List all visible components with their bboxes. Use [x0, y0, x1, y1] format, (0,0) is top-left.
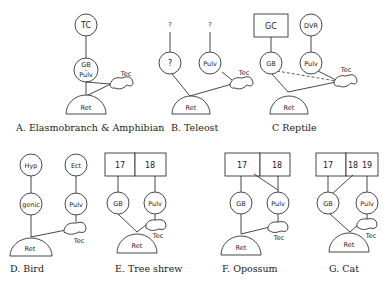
svg-text:?: ? — [168, 59, 172, 68]
node-tec — [110, 77, 133, 89]
svg-text:17: 17 — [115, 161, 125, 170]
panel-g: 17 18 19 GB Pulv Tec Ret G. Cat — [316, 153, 378, 274]
svg-text:GB: GB — [236, 200, 246, 208]
svg-text:Tec: Tec — [238, 69, 250, 77]
svg-text:Ret: Ret — [284, 104, 295, 112]
panel-d: Hyp Ect genic Pulv Tec Ret D. Bird — [10, 154, 87, 274]
svg-text:Tec: Tec — [340, 66, 352, 74]
svg-text:Ret: Ret — [236, 244, 247, 252]
svg-text:Hyp: Hyp — [25, 162, 38, 170]
svg-text:Ret: Ret — [132, 242, 143, 250]
svg-text:18: 18 — [272, 161, 282, 170]
svg-text:Pulv: Pulv — [79, 71, 93, 79]
svg-text:Tec: Tec — [73, 237, 85, 245]
svg-text:GB: GB — [113, 200, 123, 208]
caption-c: C Reptile — [272, 122, 317, 133]
node-tec — [357, 219, 377, 230]
svg-text:Ret: Ret — [81, 104, 92, 112]
caption-b: B. Teleost — [171, 122, 218, 133]
svg-text:Ret: Ret — [344, 241, 355, 249]
svg-text:?: ? — [208, 21, 211, 29]
svg-text:TC: TC — [80, 21, 91, 30]
svg-text:Pulv: Pulv — [69, 201, 83, 209]
svg-text:Pulv: Pulv — [148, 200, 162, 208]
node-tec — [268, 222, 288, 233]
panel-e: 17 18 GB Pulv Tec Ret E. Tree shrew — [105, 153, 182, 274]
svg-text:GB: GB — [266, 60, 276, 68]
node-tec — [146, 220, 166, 231]
svg-text:Tec: Tec — [152, 232, 164, 240]
svg-text:19: 19 — [362, 161, 372, 170]
svg-text:Ect: Ect — [71, 162, 82, 170]
svg-text:Tec: Tec — [273, 234, 285, 242]
svg-text:Pulv: Pulv — [271, 200, 285, 208]
svg-text:18: 18 — [145, 161, 155, 170]
svg-text:GC: GC — [265, 22, 277, 31]
node-tec — [64, 222, 86, 234]
panel-c: GC DVR GB Pulv Tec Ret C Reptile — [254, 14, 357, 133]
panel-b: ? ? ? Pulv Tec Ret B. Teleost — [159, 21, 253, 133]
caption-e: E. Tree shrew — [115, 263, 182, 274]
svg-text:Tec: Tec — [120, 70, 132, 78]
svg-text:?: ? — [168, 21, 171, 29]
svg-text:Ret: Ret — [25, 245, 36, 253]
node-tec — [230, 77, 253, 89]
caption-a: A. Elasmobranch & Amphibian — [15, 122, 165, 133]
panel-f: 17 18 GB Pulv Tec Ret F. Opossum — [221, 153, 290, 274]
svg-text:DVR: DVR — [304, 22, 318, 30]
svg-text:Pulv: Pulv — [203, 60, 217, 68]
svg-text:18: 18 — [348, 161, 358, 170]
node-tec — [334, 75, 357, 87]
svg-text:genic: genic — [22, 201, 40, 209]
svg-text:Ret: Ret — [186, 104, 197, 112]
caption-f: F. Opossum — [222, 263, 278, 274]
svg-text:17: 17 — [323, 161, 333, 170]
svg-text:17: 17 — [237, 161, 247, 170]
panel-a: TC GB - Pulv Tec Ret A. Elasmobranch & A… — [15, 14, 165, 133]
svg-text:GB: GB — [323, 200, 333, 208]
svg-text:Pulv: Pulv — [360, 200, 374, 208]
caption-g: G. Cat — [329, 263, 359, 274]
svg-text:Tec: Tec — [365, 232, 377, 240]
caption-d: D. Bird — [10, 263, 44, 274]
svg-text:Pulv: Pulv — [304, 60, 318, 68]
